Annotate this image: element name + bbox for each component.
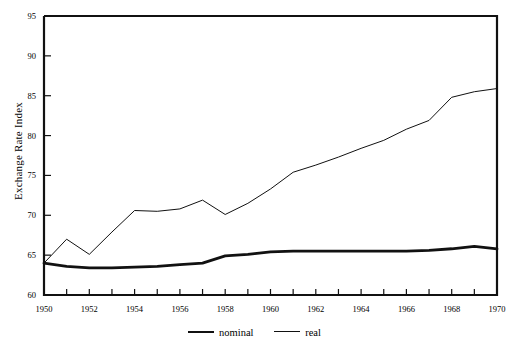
legend-label-nominal: nominal xyxy=(219,327,253,338)
plot-area xyxy=(0,0,509,346)
legend-label-real: real xyxy=(305,327,321,338)
series-line-real xyxy=(44,89,497,264)
chart-legend: nominal real xyxy=(0,326,509,338)
legend-swatch-real-icon xyxy=(274,331,300,332)
legend-entry-real: real xyxy=(274,326,321,338)
legend-swatch-nominal-icon xyxy=(188,331,214,333)
series-line-nominal xyxy=(44,246,497,268)
exchange-rate-index-chart: Exchange Rate Index 6065707580859095 195… xyxy=(0,0,509,346)
legend-entry-nominal: nominal xyxy=(188,326,253,338)
